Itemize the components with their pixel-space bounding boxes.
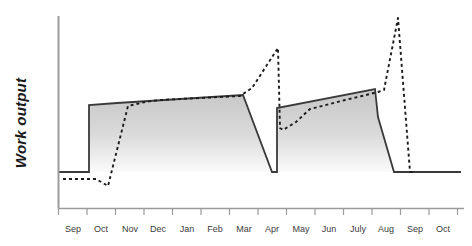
x-tick-label-oct-1: Oct	[94, 224, 108, 234]
x-tick-label-aug: Aug	[378, 224, 394, 234]
chart-plot-area	[0, 0, 472, 246]
x-tick-label-mar: Mar	[236, 224, 252, 234]
x-tick-label-apr: Apr	[265, 224, 279, 234]
x-tick-label-sep-2: Sep	[407, 224, 423, 234]
work-output-chart: Work output Sep Oct Nov Dec Jan Feb Mar …	[0, 0, 472, 246]
x-tick-label-jan: Jan	[180, 224, 195, 234]
x-tick-label-oct-2: Oct	[436, 224, 450, 234]
x-tick-label-feb: Feb	[207, 224, 223, 234]
x-tick-label-july: July	[350, 224, 366, 234]
x-axis-ticks	[59, 209, 458, 216]
x-tick-label-sep-1: Sep	[65, 224, 81, 234]
x-tick-label-dec: Dec	[150, 224, 166, 234]
x-tick-label-jun: Jun	[322, 224, 337, 234]
x-tick-label-may: May	[292, 224, 309, 234]
x-tick-label-nov: Nov	[122, 224, 138, 234]
area-fill-region	[59, 89, 394, 172]
